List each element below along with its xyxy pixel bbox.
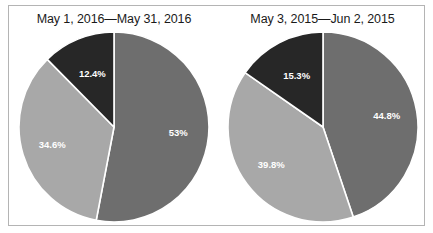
- pie-container-right: 44.8%39.8%15.3%: [219, 29, 426, 225]
- pie-slice-label: 39.8%: [257, 159, 284, 170]
- pie-slice-label: 53%: [169, 127, 189, 138]
- pie-chart: 53%34.6%12.4%: [16, 29, 212, 225]
- pie-chart: 44.8%39.8%15.3%: [225, 29, 421, 225]
- chart-panel-right: May 3, 2015—Jun 2, 2015 44.8%39.8%15.3%: [219, 6, 426, 225]
- pie-container-left: 53%34.6%12.4%: [9, 29, 219, 225]
- pie-chart-figure: May 1, 2016—May 31, 2016 53%34.6%12.4% M…: [0, 0, 433, 233]
- pie-slice-label: 12.4%: [79, 68, 106, 79]
- chart-title-left: May 1, 2016—May 31, 2016: [9, 12, 219, 26]
- pie-slice-label: 34.6%: [39, 139, 66, 150]
- chart-title-right: May 3, 2015—Jun 2, 2015: [219, 12, 426, 26]
- pie-slice-label: 44.8%: [373, 110, 400, 121]
- pie-slice-label: 15.3%: [283, 70, 310, 81]
- figure-frame: May 1, 2016—May 31, 2016 53%34.6%12.4% M…: [8, 5, 425, 226]
- chart-panel-left: May 1, 2016—May 31, 2016 53%34.6%12.4%: [9, 6, 219, 225]
